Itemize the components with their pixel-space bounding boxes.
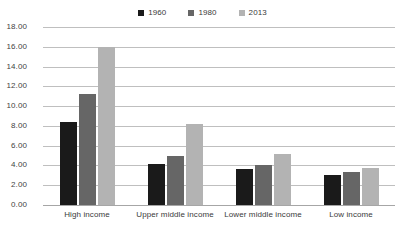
gridline [43,205,395,206]
bar-groups [43,27,395,205]
y-tick-label: 12.00 [0,82,27,90]
x-tick-label: Low income [307,210,395,220]
bars [43,27,131,205]
bars [307,27,395,205]
y-tick-label: 14.00 [0,63,27,71]
legend-item-1960[interactable]: 1960 [138,8,166,18]
bars [131,27,219,205]
y-tick-label: 0.00 [0,201,27,209]
bar-2013-upper-middle-income[interactable] [186,124,203,205]
bar-1960-high-income[interactable] [60,122,77,205]
y-tick-label: 16.00 [0,43,27,51]
bar-group [131,27,219,205]
bar-1960-low-income[interactable] [324,175,341,205]
bar-2013-lower-middle-income[interactable] [274,154,291,205]
bar-1980-low-income[interactable] [343,172,360,205]
bar-2013-low-income[interactable] [362,168,379,205]
legend-swatch-2013 [239,10,245,16]
bar-group [219,27,307,205]
y-tick-label: 10.00 [0,102,27,110]
bars [219,27,307,205]
bar-1980-upper-middle-income[interactable] [167,156,184,205]
y-tick-label: 2.00 [0,181,27,189]
y-tick-label: 4.00 [0,161,27,169]
legend-label-2013: 2013 [249,8,267,18]
y-tick-label: 8.00 [0,122,27,130]
bar-1980-high-income[interactable] [79,94,96,205]
bar-chart: 1960 1980 2013 18.0016.0014.0012.0010.00… [0,0,405,247]
chart-legend: 1960 1980 2013 [0,6,405,20]
legend-label-1960: 1960 [148,8,166,18]
y-tick-label: 6.00 [0,142,27,150]
y-tick-label: 18.00 [0,23,27,31]
x-axis-labels: High incomeUpper middle incomeLower midd… [43,210,395,220]
bar-1960-upper-middle-income[interactable] [148,164,165,205]
legend-item-1980[interactable]: 1980 [188,8,216,18]
legend-swatch-1960 [138,10,144,16]
plot-area: 18.0016.0014.0012.0010.008.006.004.002.0… [43,27,395,205]
legend-label-1980: 1980 [198,8,216,18]
bar-1960-lower-middle-income[interactable] [236,169,253,205]
legend-swatch-1980 [188,10,194,16]
legend-item-2013[interactable]: 2013 [239,8,267,18]
bar-group [43,27,131,205]
bar-group [307,27,395,205]
bar-1980-lower-middle-income[interactable] [255,165,272,205]
x-tick-label: Upper middle income [131,210,219,220]
x-tick-label: Lower middle income [219,210,307,220]
x-tick-label: High income [43,210,131,220]
bar-2013-high-income[interactable] [98,47,115,205]
